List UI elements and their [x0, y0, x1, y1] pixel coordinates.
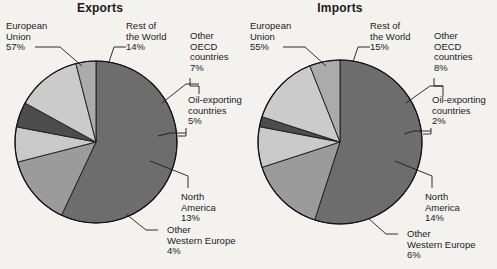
- label-line: Other: [190, 31, 229, 42]
- label-line: Oil-exporting: [432, 95, 486, 106]
- label-value: 8%: [434, 63, 473, 74]
- label-value: 13%: [181, 213, 216, 224]
- pie-chart-figure: Exports Imports European Un: [0, 0, 497, 269]
- label-line: Other: [407, 229, 475, 240]
- imports-label-other-oecd-countries: Other OECD countries 8%: [434, 31, 473, 73]
- exports-label-other-oecd-countries: Other OECD countries 7%: [190, 31, 229, 73]
- imports-label-other-western-europe: Other Western Europe 6%: [407, 229, 475, 261]
- leader-exports-row: [109, 47, 126, 62]
- label-line: Other: [167, 225, 235, 236]
- imports-pie: [258, 60, 422, 224]
- imports-label-european-union: European Union 55%: [250, 21, 291, 53]
- label-line: North: [181, 192, 216, 203]
- label-value: 57%: [6, 42, 47, 53]
- exports-label-other-western-europe: Other Western Europe 4%: [167, 225, 235, 257]
- label-line: Rest of: [126, 21, 166, 32]
- label-value: 15%: [370, 42, 410, 53]
- label-line: European: [250, 21, 291, 32]
- label-value: 4%: [167, 246, 235, 257]
- imports-label-north-america: North America 14%: [425, 192, 460, 224]
- exports-label-oil-exporting-countries: Oil-exporting countries 5%: [188, 95, 242, 127]
- leader-exports-owe: [126, 214, 158, 230]
- label-line: Rest of: [370, 21, 410, 32]
- leader-exports-oil-bracket: [178, 128, 186, 136]
- label-line: Oil-exporting: [188, 95, 242, 106]
- imports-label-rest-of-world: Rest of the World 15%: [370, 21, 410, 53]
- leader-exports-oecd-bracket: [190, 78, 199, 94]
- exports-label-north-america: North America 13%: [181, 192, 216, 224]
- label-line: North: [425, 192, 460, 203]
- label-line: Other: [434, 31, 473, 42]
- label-value: 6%: [407, 250, 475, 261]
- label-line: European: [6, 21, 47, 32]
- exports-label-rest-of-world: Rest of the World 14%: [126, 21, 166, 53]
- label-value: 5%: [188, 116, 242, 127]
- label-value: 7%: [190, 63, 229, 74]
- leader-imports-owe: [368, 218, 398, 234]
- exports-label-european-union: European Union 57%: [6, 21, 47, 53]
- exports-pie: [15, 61, 177, 223]
- imports-label-oil-exporting-countries: Oil-exporting countries 2%: [432, 95, 486, 127]
- label-value: 14%: [425, 213, 460, 224]
- leader-imports-row: [353, 47, 370, 62]
- label-value: 14%: [126, 42, 166, 53]
- label-value: 2%: [432, 116, 486, 127]
- label-value: 55%: [250, 42, 291, 53]
